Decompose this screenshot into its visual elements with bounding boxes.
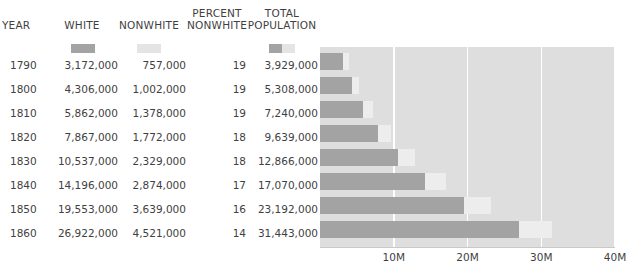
table-cell-white: 4,306,000 [46,77,118,101]
table-cell-nonwhite: 757,000 [118,53,186,77]
table-cell-nonwhite: 3,639,000 [118,197,186,221]
bar-group-1830 [320,146,615,170]
table-cell-white: 19,553,000 [46,197,118,221]
table-cell-nonwhite: 2,329,000 [118,149,186,173]
x-tick-label-30M: 30M [521,251,561,263]
bar-segment-nonwhite-1850 [464,197,491,214]
table-cell-white: 26,922,000 [46,221,118,245]
column-header-white: WHITE [50,20,114,32]
bar-segment-nonwhite-1820 [378,125,391,142]
table-cell-nonwhite: 2,874,000 [118,173,186,197]
table-header-row: YEAR WHITE NONWHITE PERCENT NONWHITE TOT… [0,6,312,36]
table-cell-total: 9,639,000 [240,125,318,149]
column-header-total-population-line1: TOTAL [246,8,318,20]
x-tick-label-20M: 20M [448,251,488,263]
table-cell-pct-nonwhite: 14 [188,221,246,245]
bar-segment-white-1860 [320,221,519,238]
table-cell-nonwhite: 1,772,000 [118,125,186,149]
bar-group-1800 [320,74,615,98]
legend-swatch-total-white-part [269,44,282,53]
table-cell-year: 1800 [10,77,50,101]
table-cell-year: 1860 [10,221,50,245]
table-row: 17903,172,000757,000193,929,000 [0,53,312,77]
table-row: 185019,553,0003,639,0001623,192,000 [0,197,312,221]
plot-area [320,47,615,247]
column-header-year: YEAR [2,20,48,32]
bar-group-1810 [320,98,615,122]
table-cell-pct-nonwhite: 16 [188,197,246,221]
table-cell-white: 14,196,000 [46,173,118,197]
bar-segment-white-1850 [320,197,464,214]
legend-swatch-total-nonwhite-part [282,44,295,53]
column-header-percent-nonwhite-line1: PERCENT [184,8,250,20]
table-cell-year: 1830 [10,149,50,173]
bar-segment-white-1830 [320,149,398,166]
table-row: 18105,862,0001,378,000197,240,000 [0,101,312,125]
table-cell-total: 3,929,000 [240,53,318,77]
bar-segment-white-1840 [320,173,425,190]
table-row: 18004,306,0001,002,000195,308,000 [0,77,312,101]
table-cell-pct-nonwhite: 18 [188,125,246,149]
table-cell-total: 12,866,000 [240,149,318,173]
table-cell-pct-nonwhite: 17 [188,173,246,197]
table-cell-white: 7,867,000 [46,125,118,149]
table-cell-total: 7,240,000 [240,101,318,125]
bar-segment-white-1820 [320,125,378,142]
column-header-nonwhite: NONWHITE [112,20,186,32]
table-cell-pct-nonwhite: 18 [188,149,246,173]
bar-segment-nonwhite-1830 [398,149,415,166]
table-cell-year: 1850 [10,197,50,221]
table-cell-nonwhite: 1,002,000 [118,77,186,101]
population-figure: YEAR WHITE NONWHITE PERCENT NONWHITE TOT… [0,0,629,272]
table-cell-year: 1790 [10,53,50,77]
table-cell-pct-nonwhite: 19 [188,53,246,77]
table-cell-nonwhite: 1,378,000 [118,101,186,125]
table-cell-pct-nonwhite: 19 [188,101,246,125]
bar-segment-white-1790 [320,53,343,70]
bar-segment-white-1800 [320,77,352,94]
bar-segment-nonwhite-1860 [519,221,552,238]
table-row: 184014,196,0002,874,0001717,070,000 [0,173,312,197]
table-cell-pct-nonwhite: 19 [188,77,246,101]
bar-group-1860 [320,218,615,242]
table-row: 186026,922,0004,521,0001431,443,000 [0,221,312,245]
x-axis-line [320,247,615,248]
bar-group-1790 [320,50,615,74]
bar-segment-white-1810 [320,101,363,118]
data-table: YEAR WHITE NONWHITE PERCENT NONWHITE TOT… [0,0,312,272]
column-header-nonwhite-line1: NONWHITE [112,20,186,32]
table-cell-total: 23,192,000 [240,197,318,221]
column-header-year-line1: YEAR [2,20,48,32]
bar-segment-nonwhite-1840 [425,173,446,190]
table-cell-nonwhite: 4,521,000 [118,221,186,245]
table-cell-year: 1840 [10,173,50,197]
table-cell-white: 3,172,000 [46,53,118,77]
bar-segment-nonwhite-1790 [343,53,349,70]
legend-swatch-nonwhite [137,44,161,53]
table-cell-total: 5,308,000 [240,77,318,101]
bar-segment-nonwhite-1800 [352,77,359,94]
table-row: 183010,537,0002,329,0001812,866,000 [0,149,312,173]
table-cell-year: 1820 [10,125,50,149]
column-header-total-population: TOTAL POPULATION [246,8,318,31]
bar-group-1840 [320,170,615,194]
column-header-percent-nonwhite: PERCENT NONWHITE [184,8,250,31]
table-cell-total: 17,070,000 [240,173,318,197]
legend-swatch-white [71,44,95,53]
table-cell-white: 10,537,000 [46,149,118,173]
table-row: 18207,867,0001,772,000189,639,000 [0,125,312,149]
bar-segment-nonwhite-1810 [363,101,373,118]
stacked-bar-chart: 10M20M30M40M [320,0,629,272]
table-cell-year: 1810 [10,101,50,125]
x-tick-label-40M: 40M [595,251,629,263]
table-cell-total: 31,443,000 [240,221,318,245]
column-header-total-population-line2: POPULATION [246,20,318,32]
x-tick-label-10M: 10M [374,251,414,263]
bar-group-1820 [320,122,615,146]
bar-group-1850 [320,194,615,218]
table-cell-white: 5,862,000 [46,101,118,125]
column-header-percent-nonwhite-line2: NONWHITE [184,20,250,32]
column-header-white-line1: WHITE [50,20,114,32]
